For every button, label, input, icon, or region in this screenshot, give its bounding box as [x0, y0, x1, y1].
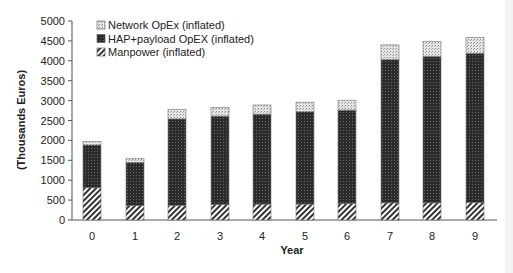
bar-segment — [168, 109, 186, 119]
legend-label: Manpower (inflated) — [108, 46, 205, 58]
legend-label: Network OpEx (inflated) — [108, 19, 225, 31]
bar-segment — [423, 56, 441, 202]
x-tick-label: 8 — [429, 230, 435, 242]
bar-segment — [466, 37, 484, 53]
bar-segment — [126, 162, 144, 205]
y-tick-label: 4500 — [41, 35, 65, 47]
y-tick-label: 5000 — [41, 15, 65, 27]
y-tick-label: 1000 — [41, 174, 65, 186]
bar-segment — [423, 42, 441, 57]
bar-stack — [338, 100, 356, 220]
x-tick-label: 9 — [472, 230, 478, 242]
bar-stack — [168, 109, 186, 220]
bar-segment — [338, 100, 356, 110]
x-tick-label: 5 — [302, 230, 308, 242]
bar-segment — [168, 119, 186, 205]
y-tick-label: 3000 — [41, 95, 65, 107]
bar-segment — [211, 116, 229, 204]
legend-swatch — [97, 35, 105, 43]
x-tick-label: 4 — [259, 230, 265, 242]
y-tick-label: 4000 — [41, 55, 65, 67]
y-axis: 0500100015002000250030003500400045005000 — [41, 15, 72, 226]
bar-segment — [381, 60, 399, 203]
bar-segment — [466, 202, 484, 220]
x-tick-label: 3 — [217, 230, 223, 242]
bar-segment — [211, 107, 229, 116]
legend-swatch — [97, 48, 105, 56]
x-axis-title: Year — [280, 244, 304, 256]
y-tick-label: 2500 — [41, 115, 65, 127]
bar-stack — [296, 102, 314, 220]
legend: Network OpEx (inflated)HAP+payload OpEX … — [97, 19, 254, 58]
bar-segment — [423, 203, 441, 220]
x-tick-label: 6 — [344, 230, 350, 242]
bar-segment — [253, 114, 271, 204]
x-tick-label: 1 — [132, 230, 138, 242]
bar-segment — [83, 145, 101, 188]
bar-stack — [381, 45, 399, 220]
bar-segment — [296, 102, 314, 112]
bar-segment — [253, 204, 271, 220]
y-axis-title: (Thousands Euros) — [15, 70, 27, 171]
y-tick-label: 2000 — [41, 134, 65, 146]
y-tick-label: 1500 — [41, 154, 65, 166]
legend-swatch — [97, 21, 105, 29]
bar-segment — [381, 203, 399, 220]
x-tick-label: 7 — [387, 230, 393, 242]
stacked-bar-chart: 0500100015002000250030003500400045005000… — [0, 0, 513, 273]
y-tick-label: 500 — [47, 194, 65, 206]
bar-segment — [83, 142, 101, 145]
x-tick-label: 2 — [174, 230, 180, 242]
page-edge — [505, 0, 513, 273]
bar-segment — [296, 204, 314, 220]
bar-stack — [83, 142, 101, 220]
y-tick-label: 0 — [59, 214, 65, 226]
bar-stack — [211, 107, 229, 220]
bar-segment — [126, 159, 144, 163]
bar-segment — [338, 110, 356, 204]
bar-stack — [466, 37, 484, 220]
bar-stack — [126, 159, 144, 220]
bar-segment — [168, 205, 186, 220]
legend-label: HAP+payload OpEX (inflated) — [108, 33, 254, 45]
bar-segment — [466, 53, 484, 202]
x-axis: 0123456789 — [72, 220, 497, 242]
bar-segment — [253, 105, 271, 114]
bar-segment — [296, 112, 314, 204]
bar-segment — [338, 204, 356, 220]
bar-segment — [83, 188, 101, 220]
bar-segment — [381, 45, 399, 60]
x-tick-label: 0 — [89, 230, 95, 242]
bar-stack — [423, 42, 441, 220]
bar-stack — [253, 105, 271, 220]
bar-segment — [211, 204, 229, 220]
bars-group — [83, 37, 484, 220]
y-tick-label: 3500 — [41, 75, 65, 87]
bar-segment — [126, 206, 144, 220]
